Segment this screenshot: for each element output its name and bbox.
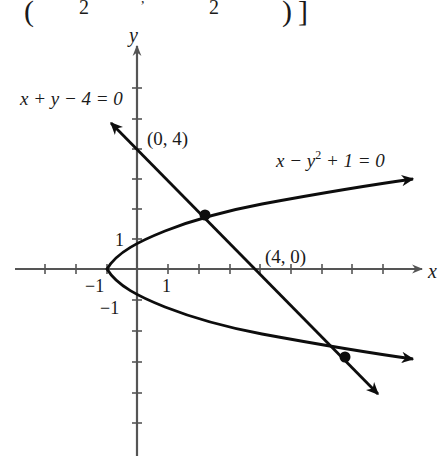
- comma: ,: [141, 0, 145, 6]
- fraction-denominator-left: 2: [79, 0, 89, 18]
- tick-label-y-neg1: −1: [100, 298, 119, 318]
- line-equation-label: x + y − 4 = 0: [19, 88, 123, 109]
- y-axis-label: y: [127, 24, 138, 47]
- tick-label-y-1: 1: [115, 230, 124, 250]
- tick-label-x-1: 1: [162, 276, 171, 296]
- y-intercept-label: (0, 4): [147, 128, 188, 150]
- fraction-denominator-right: 2: [209, 0, 219, 18]
- tick-label-x-neg1: −1: [85, 276, 104, 296]
- intersection-point-lower: [340, 352, 351, 363]
- open-paren: (: [24, 0, 34, 28]
- graph-figure: ( 2 , 2 ) ]: [0, 0, 442, 464]
- close-paren: ): [282, 0, 292, 28]
- coordinate-plane: ( 2 , 2 ) ]: [0, 0, 442, 464]
- parabola-equation-label: x − y2 + 1 = 0: [275, 148, 385, 171]
- x-intercept-label: (4, 0): [265, 246, 306, 268]
- x-axis-label: x: [427, 260, 437, 282]
- close-bracket: ]: [298, 0, 308, 27]
- intersection-point-upper: [200, 210, 211, 221]
- header-formula-fragment: ( 2 , 2 ) ]: [24, 0, 308, 28]
